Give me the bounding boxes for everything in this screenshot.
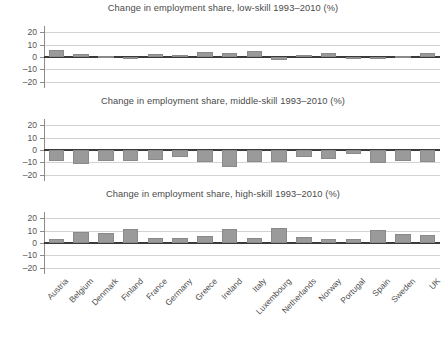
bar-series (44, 26, 440, 88)
panel-high-skill: Change in employment share, high-skill 1… (0, 186, 446, 278)
bar (123, 229, 138, 243)
bar (370, 150, 385, 163)
panel-middle-skill: Change in employment share, middle-skill… (0, 93, 446, 185)
chart-title-middle-skill: Change in employment share, middle-skill… (0, 96, 446, 106)
bar (420, 150, 435, 162)
bar (73, 232, 88, 243)
bar (271, 228, 286, 244)
bar (222, 150, 237, 167)
x-axis-label: Ireland (219, 276, 244, 301)
bar (247, 51, 262, 57)
bar (370, 57, 385, 59)
y-tick-label: –10 (23, 64, 37, 74)
y-tick-label: –10 (23, 250, 37, 260)
bar (321, 239, 336, 243)
y-tick-label: 20 (27, 27, 37, 37)
bar (271, 57, 286, 60)
bar (346, 239, 361, 243)
bar (49, 239, 64, 243)
bar (123, 150, 138, 161)
bar (395, 56, 410, 58)
bar (172, 238, 187, 243)
y-tick-label: 20 (27, 120, 37, 130)
plot-area-middle-skill: 20100–10–20 (44, 119, 440, 181)
bar (346, 57, 361, 59)
bar (148, 54, 163, 57)
chart-title-low-skill: Change in employment share, low-skill 19… (0, 3, 446, 13)
y-tick-label: 10 (27, 226, 37, 236)
bar (321, 53, 336, 57)
bar-series (44, 212, 440, 274)
bar (98, 150, 113, 161)
bar (73, 54, 88, 57)
bar (172, 150, 187, 157)
bar (148, 150, 163, 160)
y-tick-label: –20 (23, 170, 37, 180)
bar (172, 55, 187, 57)
bar (73, 150, 88, 164)
bar (247, 238, 262, 243)
bar (296, 55, 311, 57)
bar (197, 150, 212, 162)
bar (98, 56, 113, 58)
employment-share-figure: Change in employment share, low-skill 19… (0, 0, 446, 338)
bar (420, 53, 435, 57)
bar (123, 57, 138, 59)
bar (346, 150, 361, 154)
y-tick-label: –20 (23, 263, 37, 273)
bar (49, 150, 64, 161)
x-axis-label: Spain (370, 276, 392, 298)
bar (420, 235, 435, 243)
bar-series (44, 119, 440, 181)
bar (148, 238, 163, 243)
bar (296, 150, 311, 157)
y-tick-label: –10 (23, 157, 37, 167)
bar (321, 150, 336, 159)
bar (222, 53, 237, 57)
x-axis-label: Portugal (339, 276, 368, 305)
panel-low-skill: Change in employment share, low-skill 19… (0, 0, 446, 92)
chart-title-high-skill: Change in employment share, high-skill 1… (0, 189, 446, 199)
x-axis-label: Finland (118, 276, 144, 303)
x-axis-label: UK (426, 276, 441, 291)
y-tick-label: 0 (32, 52, 37, 62)
plot-area-high-skill: 20100–10–20 (44, 212, 440, 274)
y-tick-label: 0 (32, 145, 37, 155)
bar (49, 50, 64, 57)
bar (222, 229, 237, 243)
x-axis-label: Sweden (389, 276, 417, 305)
y-tick-label: 10 (27, 40, 37, 50)
bar (197, 52, 212, 57)
plot-area-low-skill: 20100–10–20 (44, 26, 440, 88)
bar (395, 234, 410, 243)
bar (370, 230, 385, 243)
y-tick-label: –20 (23, 77, 37, 87)
x-axis-label: Greece (193, 276, 219, 303)
x-axis-labels: AustriaBelgiumDenmarkFinlandFranceGerman… (44, 276, 440, 338)
bar (98, 233, 113, 243)
bar (395, 150, 410, 161)
y-tick-label: 10 (27, 133, 37, 143)
bar (197, 236, 212, 243)
y-tick-label: 20 (27, 213, 37, 223)
x-axis-label: Italy (251, 276, 269, 294)
bar (296, 237, 311, 243)
y-tick-label: 0 (32, 238, 37, 248)
bar (271, 150, 286, 162)
bar (247, 150, 262, 162)
